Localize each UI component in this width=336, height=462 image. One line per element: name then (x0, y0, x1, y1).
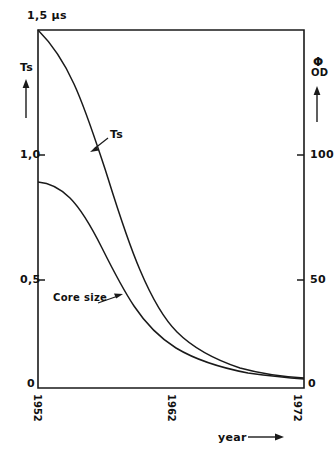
year-axis-arrow-icon (248, 434, 284, 441)
right-tick-label-100: 100 (310, 149, 334, 160)
chart-figure: 1,5 µs Ts 1,0 0,5 Φ OD 100 50 0 0 Ts Cor… (0, 0, 336, 462)
right-axis-subscript-label: OD (311, 68, 328, 78)
x-axis-name-label: year (218, 432, 247, 443)
series-line-ts (38, 30, 304, 378)
ts-curve-annotation-label: Ts (110, 129, 123, 140)
left-tick-label-1-0: 1,0 (20, 149, 40, 160)
series-line-core-size (38, 182, 304, 379)
right-axis-ticks (297, 155, 304, 280)
chart-svg (0, 0, 336, 462)
x-tick-label-1952: 1952 (32, 394, 43, 422)
left-axis-top-unit-label: 1,5 µs (27, 10, 67, 21)
left-tick-label-0-5: 0,5 (20, 274, 40, 285)
origin-label-right: 0 (308, 378, 316, 389)
phi-od-axis-arrow-icon (314, 86, 321, 122)
left-axis-name-label: Ts (20, 62, 33, 73)
origin-label-left: 0 (27, 378, 35, 389)
x-tick-label-1962: 1962 (166, 394, 177, 422)
right-tick-label-50: 50 (310, 274, 326, 285)
plot-frame (38, 30, 304, 388)
left-axis-ticks (38, 155, 45, 280)
x-tick-label-1972: 1972 (292, 394, 303, 422)
ts-axis-arrow-icon (23, 79, 30, 118)
core-size-curve-annotation-label: Core size (53, 293, 107, 303)
